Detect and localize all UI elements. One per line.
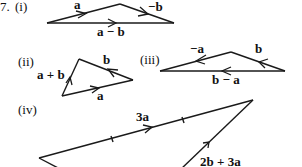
part-ii-label: (ii) bbox=[18, 54, 34, 69]
vector-diagram: 7. (i) a −b a − b (ii) a + b b a (iii) −… bbox=[0, 0, 302, 167]
label-2b-plus-3a: 2b + 3a bbox=[200, 154, 241, 167]
question-number: 7. bbox=[0, 0, 10, 14]
label-3a: 3a bbox=[136, 109, 150, 124]
vector-2b-line bbox=[39, 158, 62, 167]
label-a-minus-b: a − b bbox=[97, 24, 125, 39]
part-ii: (ii) a + b b a bbox=[18, 52, 133, 103]
label-b: b bbox=[103, 52, 110, 67]
part-iv: (iv) 3a 2b + 3a bbox=[18, 100, 253, 167]
label-a: a bbox=[74, 0, 81, 12]
part-iii: (iii) −a b b − a bbox=[140, 41, 285, 87]
part-i-label: (i) bbox=[15, 0, 27, 14]
tick-mark-2 bbox=[182, 117, 184, 123]
tick-mark-1 bbox=[111, 136, 113, 142]
part-iv-label: (iv) bbox=[18, 102, 37, 117]
part-iii-label: (iii) bbox=[140, 52, 160, 67]
label-a-plus-b: a + b bbox=[37, 67, 65, 82]
label-a: a bbox=[97, 88, 104, 103]
part-i: 7. (i) a −b a − b bbox=[0, 0, 174, 39]
label-neg-a: −a bbox=[190, 41, 204, 56]
label-neg-b: −b bbox=[148, 0, 163, 14]
label-b: b bbox=[255, 41, 262, 56]
label-b-minus-a: b − a bbox=[212, 72, 240, 87]
